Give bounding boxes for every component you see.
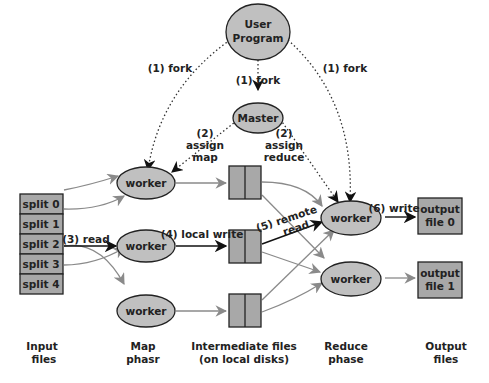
col-reduce-line2: phase xyxy=(328,353,363,365)
split-4: split 4 xyxy=(23,278,60,290)
col-input-line1: Input xyxy=(26,340,57,352)
assign-map-line2: map xyxy=(192,151,218,163)
assign-reduce-line2: reduce xyxy=(264,151,305,163)
assign-reduce-num: (2) xyxy=(276,127,293,139)
output-file-0-line1: output xyxy=(420,203,460,215)
user-program-line2: Program xyxy=(233,32,284,44)
read-label: (3) read xyxy=(62,233,109,245)
column-labels: Input files Map phasr Intermediate files… xyxy=(26,340,466,365)
output-file-1-line2: file 1 xyxy=(425,280,454,292)
split-2: split 2 xyxy=(23,238,60,250)
local-write-label: (4) local write xyxy=(161,228,244,240)
output-file-1: output file 1 xyxy=(418,262,462,298)
user-program-line1: User xyxy=(244,18,272,30)
input-splits: split 0 split 1 split 2 split 3 split 4 xyxy=(20,194,63,294)
fork-right-label: (1) fork xyxy=(323,62,369,74)
reduce-worker-1: worker xyxy=(321,262,381,296)
col-input-line2: files xyxy=(32,353,57,365)
output-file-0-line2: file 0 xyxy=(425,216,454,228)
reduce-worker-0-label: worker xyxy=(330,212,372,224)
fork-left-label: (1) fork xyxy=(148,62,194,74)
split-3: split 3 xyxy=(23,258,60,270)
split-0: split 0 xyxy=(23,198,60,210)
output-file-1-line1: output xyxy=(420,267,460,279)
master-label: Master xyxy=(237,112,279,124)
map-worker-2-label: worker xyxy=(125,305,167,317)
intermediate-file-2 xyxy=(229,294,261,327)
col-map-line1: Map xyxy=(130,340,156,352)
map-worker-0: worker xyxy=(117,167,175,199)
col-reduce-line1: Reduce xyxy=(324,340,368,352)
map-worker-1-label: worker xyxy=(125,240,167,252)
col-intermediate-line2: (on local disks) xyxy=(199,353,289,365)
mapreduce-diagram: User Program Master worker worker worker… xyxy=(0,0,489,383)
intermediate-file-0 xyxy=(229,166,261,199)
assign-map-num: (2) xyxy=(197,127,214,139)
map-worker-0-label: worker xyxy=(125,177,167,189)
reduce-worker-1-label: worker xyxy=(330,273,372,285)
col-map-line2: phasr xyxy=(126,353,160,365)
assign-map-line1: assign xyxy=(186,139,224,151)
col-output-line1: Output xyxy=(425,340,466,352)
col-intermediate-line1: Intermediate files xyxy=(191,340,297,352)
assign-reduce-line1: assign xyxy=(265,139,303,151)
output-file-0: output file 0 xyxy=(418,198,462,234)
fork-center-label: (1) fork xyxy=(236,74,282,86)
split-1: split 1 xyxy=(23,218,60,230)
write-label: (6) write xyxy=(368,202,419,214)
col-output-line2: files xyxy=(434,353,459,365)
user-program-node: User Program xyxy=(226,4,290,60)
map-worker-2: worker xyxy=(117,295,175,327)
